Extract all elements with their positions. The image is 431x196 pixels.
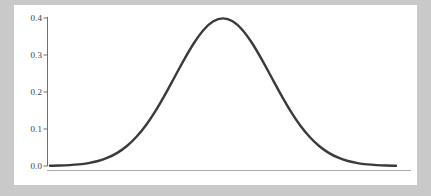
distribution-curve [50, 18, 396, 165]
plot-canvas [0, 0, 431, 196]
y-tick-label-04: 0.4 [16, 13, 42, 23]
figure-root: 0.4 0.3 0.2 0.1 0.0 [0, 0, 431, 196]
y-axis-ticks [44, 18, 48, 166]
y-tick-label-01: 0.1 [16, 124, 42, 134]
y-tick-label-02: 0.2 [16, 87, 42, 97]
y-tick-label-00: 0.0 [16, 161, 42, 171]
y-tick-label-03: 0.3 [16, 50, 42, 60]
